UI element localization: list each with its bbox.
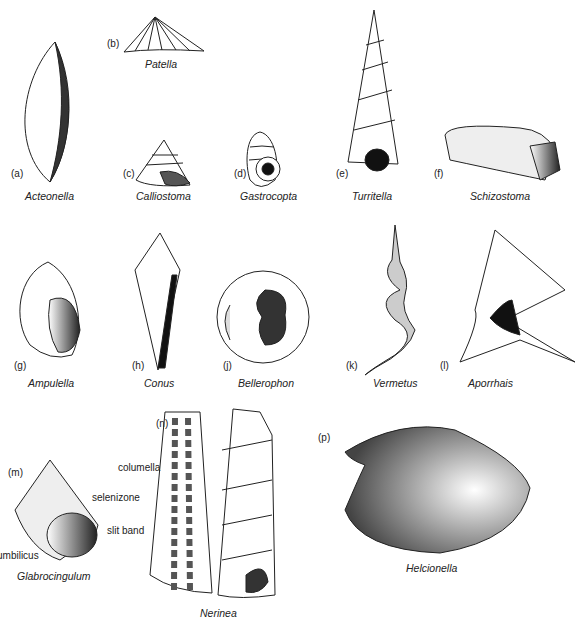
label-name-helcionella: Helcionella xyxy=(406,562,457,574)
annotation-slit-band: slit band xyxy=(107,525,144,536)
label-name-schizostoma: Schizostoma xyxy=(470,190,530,202)
glabrocingulum-shell xyxy=(15,460,98,560)
shell-illustrations xyxy=(0,0,584,634)
label-name-vermetus: Vermetus xyxy=(373,377,418,389)
label-name-gastrocopta: Gastrocopta xyxy=(240,190,297,202)
label-letter-l: (l) xyxy=(440,360,449,371)
label-letter-b: (b) xyxy=(107,38,119,49)
annotation-umbilicus: umbilicus xyxy=(0,550,39,561)
annotation-columella: columella xyxy=(118,462,160,473)
label-letter-f: (f) xyxy=(434,168,443,179)
schizostoma-shell xyxy=(445,126,560,180)
label-letter-c: (c) xyxy=(123,168,135,179)
label-letter-e: (e) xyxy=(336,168,348,179)
label-letter-n: (n) xyxy=(156,418,168,429)
vermetus-shell xyxy=(365,225,415,375)
label-name-turritella: Turritella xyxy=(352,190,392,202)
label-name-nerinea: Nerinea xyxy=(200,607,237,619)
turritella-shell xyxy=(348,10,398,171)
label-letter-m: (m) xyxy=(8,467,23,478)
label-letter-g: (g) xyxy=(14,360,26,371)
gastrocopta-shell xyxy=(247,132,280,187)
ampulella-shell xyxy=(20,262,80,357)
label-letter-d: (d) xyxy=(234,168,246,179)
label-name-bellerophon: Bellerophon xyxy=(238,377,294,389)
label-name-conus: Conus xyxy=(144,377,174,389)
label-name-calliostoma: Calliostoma xyxy=(136,190,191,202)
patella-shell xyxy=(124,17,204,52)
calliostoma-shell xyxy=(136,140,190,186)
helcionella-shell xyxy=(345,427,530,553)
label-letter-k: (k) xyxy=(346,360,358,371)
label-letter-p: (p) xyxy=(318,432,330,443)
label-name-glabrocingulum: Glabrocingulum xyxy=(17,570,91,582)
bellerophon-shell xyxy=(217,271,309,363)
aporrhais-shell xyxy=(460,230,575,362)
label-letter-a: (a) xyxy=(11,168,23,179)
label-name-ampulella: Ampulella xyxy=(28,377,74,389)
conus-shell xyxy=(135,233,180,370)
label-name-acteonella: Acteonella xyxy=(25,190,74,202)
acteonella-shell xyxy=(25,42,69,182)
label-letter-j: (j) xyxy=(223,360,232,371)
label-name-patella: Patella xyxy=(145,58,177,70)
annotation-selenizone: selenizone xyxy=(92,492,140,503)
nerinea-shell xyxy=(150,409,275,598)
label-letter-h: (h) xyxy=(132,360,144,371)
label-name-aporrhais: Aporrhais xyxy=(468,377,513,389)
